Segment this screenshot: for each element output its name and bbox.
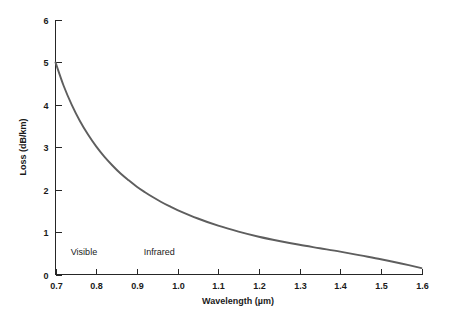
y-axis-title: Loss (dB/km) (18, 118, 28, 175)
y-tick-label: 1 (43, 228, 48, 238)
y-tick-label: 5 (43, 58, 48, 68)
loss-vs-wavelength-chart: 0123456 0.70.80.91.01.11.21.31.41.51.6 V… (0, 0, 476, 318)
y-tick-label: 4 (43, 101, 48, 111)
chart-background (0, 0, 476, 318)
chart-figure: 0123456 0.70.80.91.01.11.21.31.41.51.6 V… (0, 0, 476, 318)
region-label-infrared: Infrared (144, 247, 175, 257)
x-tick-label: 1.6 (416, 281, 429, 291)
x-tick-label: 0.8 (90, 281, 103, 291)
x-tick-label: 1.3 (294, 281, 307, 291)
x-tick-label: 1.5 (375, 281, 388, 291)
y-tick-label: 6 (43, 16, 48, 26)
y-tick-label: 3 (43, 143, 48, 153)
x-tick-label: 1.2 (253, 281, 266, 291)
x-tick-label: 1.4 (334, 281, 347, 291)
x-axis-title: Wavelength (µm) (202, 296, 274, 306)
y-tick-label: 2 (43, 186, 48, 196)
x-tick-label: 0.9 (131, 281, 144, 291)
y-tick-label: 0 (43, 271, 48, 281)
x-tick-label: 0.7 (50, 281, 63, 291)
x-tick-label: 1.0 (172, 281, 185, 291)
x-tick-label: 1.1 (212, 281, 225, 291)
region-label-visible: Visible (71, 247, 97, 257)
